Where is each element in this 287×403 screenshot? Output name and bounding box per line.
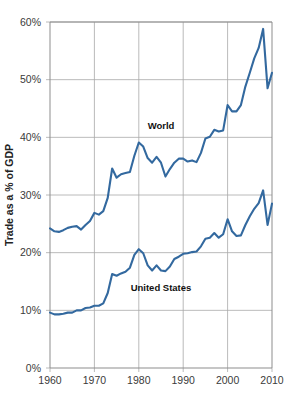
series-label-united-states: United States: [131, 282, 192, 293]
x-axis-tick-label: 1980: [127, 374, 151, 386]
trade-share-of-gdp-line-chart: 0%10%20%30%40%50%60% 1960197019801990200…: [0, 0, 287, 403]
y-axis-tick-label: 60%: [20, 16, 41, 28]
y-axis-tick-label: 10%: [20, 304, 41, 316]
x-axis-tick-label: 2000: [216, 374, 240, 386]
y-axis-tick-label: 40%: [20, 131, 41, 143]
y-axis-tick-label: 30%: [20, 189, 41, 201]
x-axis-tick-label: 1960: [38, 374, 62, 386]
x-axis-tick-label-group: 196019701980199020002010: [38, 368, 284, 386]
gridline-group: [50, 22, 272, 368]
x-axis-tick-label: 1990: [172, 374, 196, 386]
y-axis-tick-label: 0%: [26, 362, 41, 374]
y-axis-title: Trade as a % of GDP: [3, 144, 15, 246]
series-annotation-group: WorldUnited States: [131, 120, 192, 293]
y-axis-tick-label: 50%: [20, 73, 41, 85]
x-axis-tick-label: 2010: [260, 374, 284, 386]
x-axis-tick-label: 1970: [83, 374, 107, 386]
y-axis-tick-label: 20%: [20, 246, 41, 258]
y-axis-tick-label-group: 0%10%20%30%40%50%60%: [20, 16, 50, 374]
chart-container: 0%10%20%30%40%50%60% 1960197019801990200…: [0, 0, 287, 403]
series-label-world: World: [148, 120, 175, 131]
data-series-group: [50, 29, 272, 314]
